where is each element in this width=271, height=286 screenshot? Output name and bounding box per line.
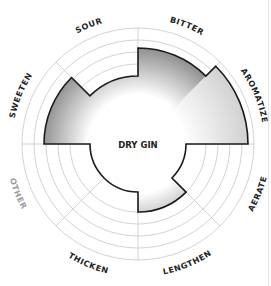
label-other: OTHER bbox=[8, 177, 29, 211]
label-lengthen: LENGTHEN bbox=[162, 249, 213, 277]
sector-fill-lengthen bbox=[138, 178, 186, 212]
grid-spoke bbox=[56, 178, 104, 226]
label-sour: SOUR bbox=[74, 16, 103, 35]
center-label: DRY GIN bbox=[118, 140, 158, 150]
label-sweeten: SWEETEN bbox=[8, 71, 35, 119]
sector-fills bbox=[44, 48, 248, 212]
radial-chart: BITTERAROMATIZEAERATELENGTHENTHICKENOTHE… bbox=[0, 0, 271, 286]
sector-fill-sweeten bbox=[44, 78, 104, 144]
label-aerate: AERATE bbox=[246, 175, 269, 213]
